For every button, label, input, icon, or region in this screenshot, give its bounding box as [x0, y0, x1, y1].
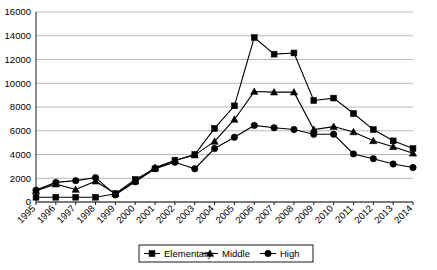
line-chart: 0200040006000800010000120001400016000199… — [0, 0, 437, 270]
legend-label: Middle — [222, 248, 250, 259]
data-point-circle — [390, 161, 396, 167]
data-point-circle — [92, 174, 98, 180]
data-point-circle — [311, 131, 317, 137]
data-point-circle — [152, 166, 158, 172]
data-point-circle — [72, 177, 78, 183]
data-point-square — [291, 50, 297, 56]
data-point-square — [212, 125, 218, 131]
y-axis-tick-label: 12000 — [5, 54, 31, 65]
data-point-square — [370, 127, 376, 133]
data-point-circle — [172, 159, 178, 165]
data-point-circle — [251, 122, 257, 128]
chart-background — [0, 0, 437, 270]
data-point-square — [53, 194, 59, 200]
data-point-square — [73, 194, 79, 200]
data-point-circle — [231, 134, 237, 140]
data-point-square — [311, 98, 317, 104]
data-point-circle — [33, 187, 39, 193]
y-axis-tick-label: 10000 — [5, 78, 31, 89]
data-point-circle — [291, 126, 297, 132]
data-point-square — [351, 111, 357, 117]
chart-container: 0200040006000800010000120001400016000199… — [0, 0, 437, 270]
data-point-square — [331, 95, 337, 101]
data-point-circle — [370, 155, 376, 161]
data-point-square — [251, 35, 257, 41]
y-axis-tick-label: 6000 — [10, 125, 31, 136]
data-point-circle — [211, 145, 217, 151]
data-point-circle — [330, 131, 336, 137]
y-axis-tick-label: 2000 — [10, 173, 31, 184]
legend-label: High — [280, 248, 300, 259]
data-point-square — [93, 194, 99, 200]
data-point-circle — [350, 151, 356, 157]
data-point-circle — [271, 125, 277, 131]
chart-legend: ElementaryMiddleHigh — [139, 245, 313, 262]
data-point-circle — [265, 250, 271, 256]
data-point-circle — [410, 164, 416, 170]
data-point-circle — [132, 179, 138, 185]
data-point-square — [33, 194, 39, 200]
y-axis-tick-label: 16000 — [5, 6, 31, 17]
y-axis-tick-label: 14000 — [5, 30, 31, 41]
y-axis-tick-label: 4000 — [10, 149, 31, 160]
y-axis-tick-label: 8000 — [10, 101, 31, 112]
data-point-circle — [112, 192, 118, 198]
data-point-circle — [192, 166, 198, 172]
data-point-square — [271, 51, 277, 57]
data-point-square — [232, 103, 238, 109]
data-point-circle — [53, 179, 59, 185]
data-point-square — [149, 251, 155, 257]
